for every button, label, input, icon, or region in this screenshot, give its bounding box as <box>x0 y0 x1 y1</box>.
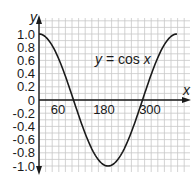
x-tick-labels: 60180300 <box>51 102 161 117</box>
y-tick-label: -1.0 <box>13 159 35 174</box>
x-tick-label: 60 <box>51 102 65 117</box>
equation-x: x <box>143 51 152 67</box>
equation-annotation: y = cos x <box>94 51 152 67</box>
cosine-chart: 1.00.80.60.40.20-0.2-0.4-0.6-0.8-1.0 601… <box>0 0 196 179</box>
equation-body: = cos <box>102 51 144 67</box>
y-tick-labels: 1.00.80.60.40.20-0.2-0.4-0.6-0.8-1.0 <box>13 27 35 174</box>
y-axis-down-arrow-icon <box>36 166 42 175</box>
x-tick-label: 180 <box>93 102 115 117</box>
x-tick-label: 300 <box>139 102 161 117</box>
y-axis-label: y <box>29 9 38 25</box>
x-axis-label: x <box>182 82 191 98</box>
